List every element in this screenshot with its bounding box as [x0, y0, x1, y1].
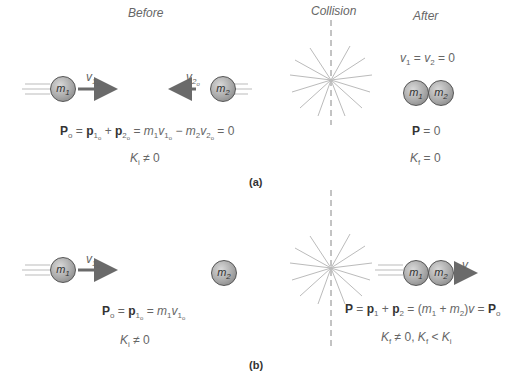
ball-m2-after-a: m2: [428, 80, 454, 106]
ball-m2-a: m2: [210, 76, 236, 102]
eq-momentum-before-a: Po = p1o + p2o = m1v1o − m2v2o = 0: [60, 124, 234, 141]
eq-ke-after-b: Kf ≠ 0, Kf < Ki: [381, 330, 452, 346]
eq-ke-before-a: Ki ≠ 0: [130, 151, 160, 167]
panel-label-b: (b): [249, 359, 263, 371]
header-before: Before: [128, 6, 163, 20]
ball-m1-b: m1: [50, 257, 76, 283]
ball-m2-after-b: m2: [428, 260, 454, 286]
eq-ke-before-b: Ki ≠ 0: [120, 333, 150, 349]
motion-streaks: [22, 84, 403, 275]
header-after: After: [413, 9, 438, 23]
eq-velocity-after-a: v1 = v2 = 0: [400, 51, 455, 67]
velocity-label-v2o: v2o: [186, 70, 200, 87]
ball-m2-b: m2: [211, 260, 237, 286]
eq-momentum-after-a: P = 0: [412, 124, 440, 138]
ball-m1-a: m1: [50, 76, 76, 102]
velocity-label-v1o-b: v1o: [86, 252, 100, 269]
eq-ke-after-a: Kf = 0: [410, 151, 441, 167]
ball-m1-after-b: m1: [403, 260, 429, 286]
panel-label-a: (a): [249, 176, 262, 188]
header-collision: Collision: [311, 4, 356, 18]
velocity-label-v-after-b: v: [462, 258, 468, 272]
velocity-label-v1o: v1o: [86, 70, 100, 87]
eq-momentum-before-b: Po = p1o = m1v1o: [102, 304, 185, 321]
ball-m1-after-a: m1: [403, 80, 429, 106]
eq-momentum-after-b: P = p1 + p2 = (m1 + m2)v = Po: [345, 302, 500, 318]
